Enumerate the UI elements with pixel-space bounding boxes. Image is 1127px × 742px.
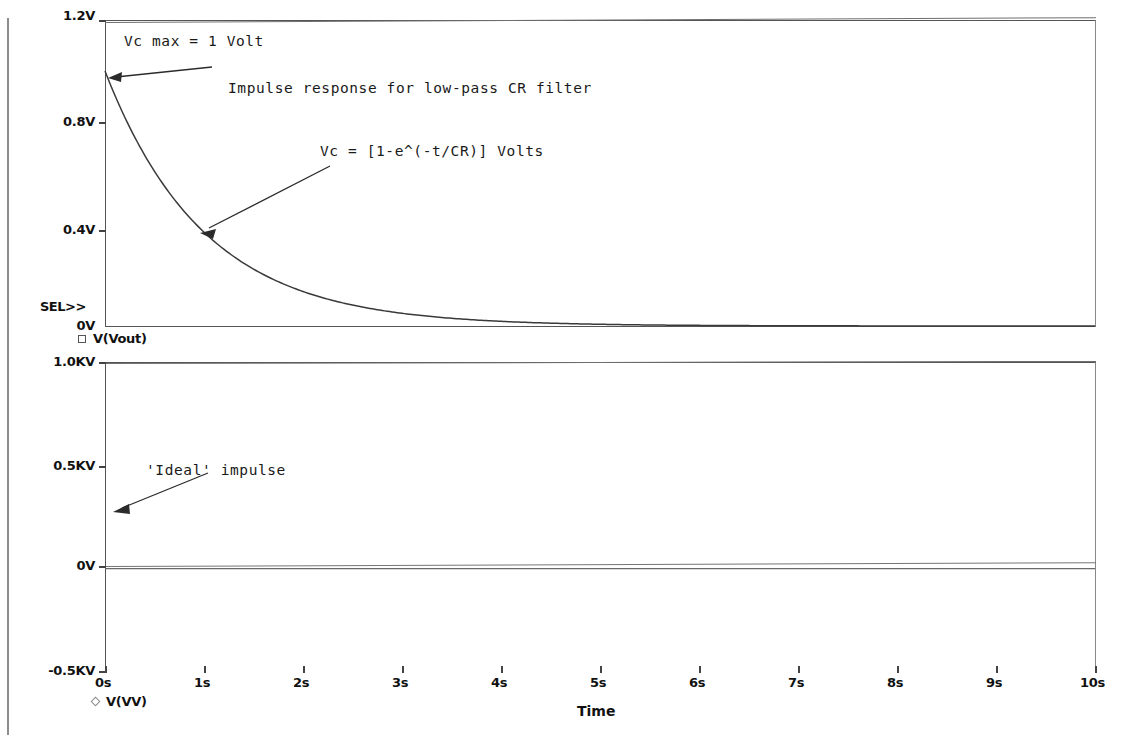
annotation-title: Impulse response for low-pass CR filter [228, 80, 592, 96]
top-ytick-1 [99, 20, 106, 22]
xtick-3 [402, 666, 404, 673]
xtick-9 [996, 666, 998, 673]
xlabel-3: 3s [392, 675, 408, 690]
annotation-ideal-impulse: 'Ideal' impulse [146, 462, 286, 478]
bottom-plot-frame [105, 362, 1096, 673]
legend-vout[interactable]: V(Vout) [78, 331, 147, 346]
xtick-10 [1095, 666, 1097, 673]
legend-vv[interactable]: V(VV) [92, 694, 147, 709]
xtick-2 [303, 666, 305, 673]
page-border-line [7, 18, 9, 735]
annotation-vc-max: Vc max = 1 Volt [124, 33, 264, 49]
top-ylabel-1: 1.2V [40, 8, 95, 23]
xtick-4 [501, 666, 503, 673]
probe-plot-page: 1.2V 0.8V 0.4V 0V SEL>> Vc max = 1 Volt … [0, 0, 1127, 742]
xtick-0 [105, 666, 107, 673]
legend-vv-label: V(VV) [106, 694, 147, 709]
xlabel-7: 7s [788, 675, 804, 690]
xtick-5 [600, 666, 602, 673]
bottom-ytick-1 [99, 362, 106, 364]
xlabel-0: 0s [95, 675, 111, 690]
bottom-ylabel-2: 0.5KV [30, 458, 95, 473]
xlabel-1: 1s [194, 675, 210, 690]
xlabel-5: 5s [590, 675, 606, 690]
xlabel-10: 10s [1080, 675, 1105, 690]
top-ylabel-2: 0.8V [40, 114, 95, 129]
xlabel-6: 6s [689, 675, 705, 690]
diamond-marker-icon [91, 697, 101, 707]
annotation-equation: Vc = [1-e^(-t/CR)] Volts [320, 143, 544, 159]
xtick-1 [204, 666, 206, 673]
xtick-8 [897, 666, 899, 673]
top-ytick-2 [99, 122, 106, 124]
xlabel-4: 4s [491, 675, 507, 690]
bottom-ytick-2 [99, 466, 106, 468]
xlabel-8: 8s [887, 675, 903, 690]
xtick-6 [699, 666, 701, 673]
square-marker-icon [78, 335, 86, 343]
legend-vout-label: V(Vout) [93, 331, 147, 346]
bottom-ylabel-3: 0V [30, 558, 95, 573]
xlabel-9: 9s [986, 675, 1002, 690]
bottom-ytick-3 [99, 566, 106, 568]
sel-marker[interactable]: SEL>> [40, 299, 86, 314]
top-plot-frame [105, 20, 1096, 327]
xlabel-2: 2s [293, 675, 309, 690]
top-ytick-3 [99, 230, 106, 232]
bottom-ylabel-1: 1.0KV [30, 354, 95, 369]
xtick-7 [798, 666, 800, 673]
top-ylabel-3: 0.4V [40, 222, 95, 237]
x-axis-title: Time [577, 703, 615, 719]
bottom-ylabel-4: -0.5KV [22, 663, 95, 678]
